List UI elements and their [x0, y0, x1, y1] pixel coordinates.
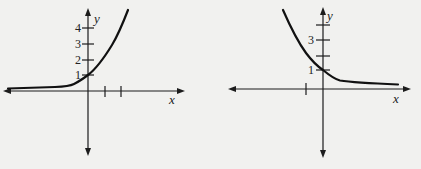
left-y-axis-up-arrow-icon [85, 8, 91, 16]
right-y-tick-label-1: 1 [308, 63, 314, 77]
left-y-tick-label-3: 3 [75, 37, 81, 51]
left-x-axis-right-arrow-icon [177, 88, 185, 94]
right-x-axis-left-arrow-icon [228, 86, 236, 92]
left-y-tick-label-4: 4 [75, 21, 81, 35]
left-x-axis-label: x [168, 92, 175, 107]
right-y-axis-down-arrow-icon [320, 150, 326, 158]
left-graph: 1 2 3 4 y x [3, 8, 185, 156]
right-x-axis-label: x [392, 91, 399, 106]
left-y-axis-label: y [92, 11, 100, 26]
left-y-axis-down-arrow-icon [85, 148, 91, 156]
left-y-tick-label-2: 2 [75, 53, 81, 67]
right-x-axis-right-arrow-icon [403, 86, 411, 92]
graphs-canvas: 1 2 3 4 y x [0, 0, 421, 169]
right-y-axis-label: y [325, 8, 333, 23]
right-y-axis-up-arrow-icon [320, 7, 326, 15]
page: 1 2 3 4 y x [0, 0, 421, 169]
left-growth-curve [8, 10, 128, 89]
right-decay-curve [283, 10, 398, 85]
right-y-tick-label-3: 3 [308, 33, 314, 47]
right-graph: 1 3 y x [228, 7, 411, 158]
